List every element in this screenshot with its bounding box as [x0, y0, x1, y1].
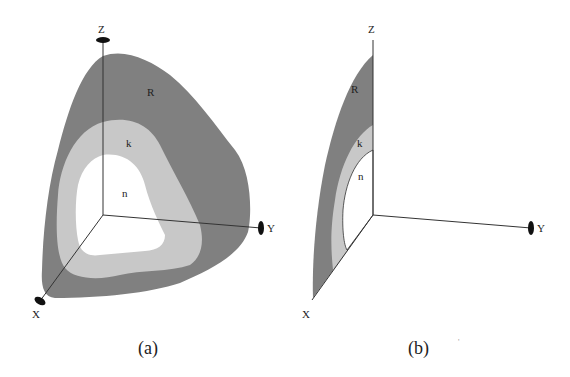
z-axis-marker-a — [96, 37, 110, 43]
z-axis-label-b: Z — [368, 23, 375, 35]
z-axis-label-a: Z — [98, 23, 105, 35]
region-k-label-a: k — [126, 137, 132, 149]
region-r-label-b: R — [351, 83, 359, 95]
panel-a: Z Y X R k n (a) — [32, 23, 275, 359]
y-axis-marker-a — [258, 221, 264, 235]
y-axis-label-a: Y — [267, 222, 275, 234]
caption-a: (a) — [138, 338, 158, 359]
region-n-label-a: n — [122, 187, 128, 199]
region-k-label-b: k — [357, 137, 363, 149]
x-axis-marker-a — [33, 295, 47, 307]
y-axis-b — [373, 215, 531, 228]
region-n-label-b: n — [358, 170, 364, 182]
stray-mark: ' — [458, 338, 460, 347]
x-axis-label-a: X — [32, 308, 40, 320]
y-axis-marker-b — [528, 221, 534, 235]
panel-b: Z Y X R k n (b) ' — [302, 23, 545, 359]
region-r-label-a: R — [147, 86, 155, 98]
y-axis-label-b: Y — [537, 222, 545, 234]
caption-b: (b) — [408, 338, 429, 359]
x-axis-label-b: X — [302, 308, 310, 320]
figure: Z Y X R k n (a) Z Y X R k n (b) — [0, 0, 570, 377]
